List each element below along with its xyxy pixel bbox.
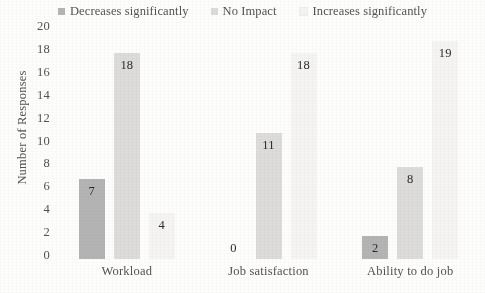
x-category-label: Ability to do job	[339, 264, 481, 284]
bar-value-label: 0	[230, 241, 236, 256]
bar-slot: 8	[397, 30, 423, 259]
y-tick-label: 10	[26, 133, 50, 148]
legend-swatch-decreases-significantly	[58, 8, 65, 15]
y-tick-label: 2	[26, 225, 50, 240]
y-tick-label: 20	[26, 19, 50, 34]
bar-group: 01118	[198, 30, 340, 259]
x-axis-category-labels: WorkloadJob satisfactionAbility to do jo…	[56, 264, 481, 284]
bar-slot: 18	[114, 30, 140, 259]
bar-value-label: 4	[159, 218, 165, 233]
bar-slot: 18	[291, 30, 317, 259]
x-category-label: Workload	[56, 264, 198, 284]
bar-slot: 7	[79, 30, 105, 259]
bar-slot: 4	[149, 30, 175, 259]
legend-swatch-no-impact	[211, 8, 218, 15]
bar[interactable]: 11	[256, 133, 282, 259]
bar[interactable]: 7	[79, 179, 105, 259]
y-tick-label: 8	[26, 156, 50, 171]
y-tick-label: 14	[26, 87, 50, 102]
bar[interactable]: 18	[114, 53, 140, 259]
legend-item-no-impact: No Impact	[211, 5, 277, 18]
bar-group: 7184	[56, 30, 198, 259]
bar-value-label: 2	[372, 241, 378, 256]
y-axis-tick-labels: 20181614121086420	[26, 26, 50, 266]
bar-value-label: 8	[407, 172, 413, 187]
bar-value-label: 18	[120, 58, 133, 73]
legend-label-decreases-significantly: Decreases significantly	[70, 5, 189, 18]
bar[interactable]: 2	[362, 236, 388, 259]
plot-area: 7184011182819	[56, 30, 481, 259]
y-tick-label: 12	[26, 110, 50, 125]
bar-value-label: 11	[262, 138, 274, 153]
bar-group: 2819	[339, 30, 481, 259]
legend-label-increases-significantly: Increases significantly	[313, 5, 427, 18]
y-tick-label: 0	[26, 248, 50, 263]
y-tick-label: 16	[26, 64, 50, 79]
y-tick-label: 18	[26, 41, 50, 56]
bar-value-label: 18	[297, 58, 310, 73]
bar-slot: 11	[256, 30, 282, 259]
bar-value-label: 19	[439, 46, 452, 61]
y-tick-label: 6	[26, 179, 50, 194]
bar[interactable]: 18	[291, 53, 317, 259]
legend-item-increases-significantly: Increases significantly	[299, 5, 427, 18]
legend-label-no-impact: No Impact	[223, 5, 277, 18]
bar-value-label: 7	[89, 184, 95, 199]
bar-slot: 19	[432, 30, 458, 259]
bar[interactable]: 4	[149, 213, 175, 259]
bar-slot: 0	[221, 30, 247, 259]
legend-swatch-increases-significantly	[299, 7, 308, 16]
chart-legend: Decreases significantly No Impact Increa…	[0, 2, 485, 20]
bar[interactable]: 19	[432, 41, 458, 259]
bar[interactable]: 8	[397, 167, 423, 259]
y-tick-label: 4	[26, 202, 50, 217]
x-category-label: Job satisfaction	[198, 264, 340, 284]
legend-item-decreases-significantly: Decreases significantly	[58, 5, 189, 18]
bar-slot: 2	[362, 30, 388, 259]
bar-chart: Decreases significantly No Impact Increa…	[0, 0, 485, 293]
